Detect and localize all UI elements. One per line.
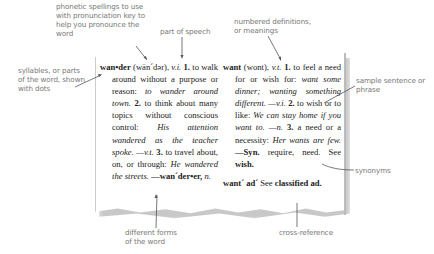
- paper-edge: [344, 53, 346, 215]
- part-of-speech: —n.: [269, 122, 283, 132]
- synonym-label: —Syn.: [235, 147, 260, 157]
- entry-want: want (wont), v.t. 1. to feel a need for …: [223, 61, 341, 189]
- cross-reference-word: classified ad.: [275, 178, 322, 188]
- annotation-part-of-speech: part of speech: [160, 27, 211, 36]
- annotation-synonyms: synonyms: [355, 166, 391, 175]
- headword-wander: wan•der: [100, 62, 131, 72]
- definition-number: 3.: [287, 122, 293, 132]
- see-label: See: [260, 178, 272, 188]
- part-of-speech: v.t.: [272, 62, 282, 72]
- headword-want: want: [223, 62, 241, 72]
- annotation-cross-reference: cross-reference: [279, 228, 333, 237]
- pronunciation: (wän´dər),: [133, 62, 169, 72]
- part-of-speech: n.: [204, 171, 210, 181]
- entry-wander: wan•der (wän´dər), v.i. 1. to walk aroun…: [100, 61, 218, 182]
- see-label: See: [329, 147, 341, 157]
- annotation-different-forms: different forms of the word: [125, 228, 185, 246]
- annotation-phonetic: phonetic spellings to use with pronuncia…: [56, 2, 156, 38]
- synonyms: require, need.: [268, 147, 321, 157]
- headword-want-ad: want´ ad´: [223, 178, 258, 188]
- part-of-speech: —v.t.: [136, 147, 154, 157]
- definition-number: 3.: [156, 147, 162, 157]
- definition-number: 2.: [288, 98, 294, 108]
- definition-number: 2.: [135, 98, 141, 108]
- part-of-speech: —v.i.: [268, 98, 286, 108]
- definition-number: 1.: [284, 62, 290, 72]
- word-form: —wan´der•er,: [151, 171, 202, 181]
- annotation-syllables: syllables, or parts of the word, shown w…: [18, 66, 88, 93]
- part-of-speech: v.i.: [171, 62, 181, 72]
- entry-want-ad: want´ ad´ See classified ad.: [223, 177, 341, 189]
- annotation-numbered-definitions: numbered definitions, or meanings: [234, 17, 314, 35]
- annotation-sample-sentence: sample sentence or phrase: [356, 76, 426, 94]
- see-word: wish.: [235, 159, 254, 169]
- definition-number: 1.: [184, 62, 190, 72]
- example: Her wants are few.: [272, 135, 341, 145]
- pronunciation: (wont),: [244, 62, 269, 72]
